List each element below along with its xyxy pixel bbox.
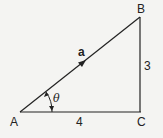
vertex-c-label: C	[137, 116, 146, 128]
side-bc-label: 3	[144, 60, 151, 72]
side-ac-label: 4	[76, 116, 83, 128]
angle-arrow-bottom-icon	[49, 106, 54, 111]
vector-a-label: a	[78, 46, 85, 58]
vertex-a-label: A	[10, 116, 18, 128]
vertex-b-label: B	[137, 3, 145, 15]
vector-arrowhead-icon	[78, 60, 86, 67]
angle-theta-label: θ	[53, 93, 60, 104]
